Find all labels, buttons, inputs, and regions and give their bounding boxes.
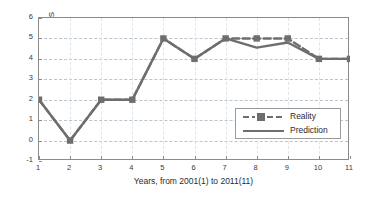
x-tick-label: 10: [308, 163, 328, 172]
y-tick-label: 2: [3, 95, 33, 103]
legend-item-prediction[interactable]: Prediction: [236, 124, 340, 138]
data-point-marker: [67, 137, 73, 143]
legend-label-reality: Reality: [290, 111, 316, 121]
x-axis-title: Years, from 2001(1) to 2011(11): [38, 176, 349, 186]
data-point-marker: [98, 97, 104, 103]
x-tick-label: 7: [215, 163, 235, 172]
legend-swatch-prediction: [242, 124, 286, 138]
data-point-marker: [316, 56, 322, 62]
legend-swatch-reality: [242, 110, 286, 124]
data-point-marker: [39, 97, 42, 103]
y-tick-label: 1: [3, 115, 33, 123]
data-point-marker: [254, 35, 260, 41]
x-tick-label: 4: [121, 163, 141, 172]
data-series-layer: [39, 18, 350, 161]
legend-item-reality[interactable]: Reality: [236, 110, 340, 124]
y-tick-label: 6: [3, 13, 33, 21]
data-point-marker: [191, 56, 197, 62]
x-tick-label: 3: [90, 163, 110, 172]
chart-figure: Number of landfall TS Years, from 2001(1…: [0, 0, 365, 201]
y-tick-label: 0: [3, 136, 33, 144]
legend-label-prediction: Prediction: [290, 125, 328, 135]
plot-area: Reality Prediction: [38, 17, 349, 160]
y-tick-label: 3: [3, 74, 33, 82]
legend[interactable]: Reality Prediction: [235, 108, 341, 139]
x-tick-label: 8: [246, 163, 266, 172]
x-tick-label: 5: [152, 163, 172, 172]
data-point-marker: [129, 97, 135, 103]
data-point-marker: [222, 35, 228, 41]
y-tick-label: 4: [3, 54, 33, 62]
data-point-marker: [285, 35, 291, 41]
data-point-marker: [347, 56, 350, 62]
x-tick-label: 6: [184, 163, 204, 172]
x-tick-label: 9: [277, 163, 297, 172]
x-tick-label: 2: [59, 163, 79, 172]
x-tick-label: 11: [339, 163, 359, 172]
x-tick-mark: [350, 156, 351, 159]
y-tick-mark: [39, 161, 42, 162]
data-point-marker: [160, 35, 166, 41]
y-tick-label: 5: [3, 33, 33, 41]
x-tick-label: 1: [28, 163, 48, 172]
